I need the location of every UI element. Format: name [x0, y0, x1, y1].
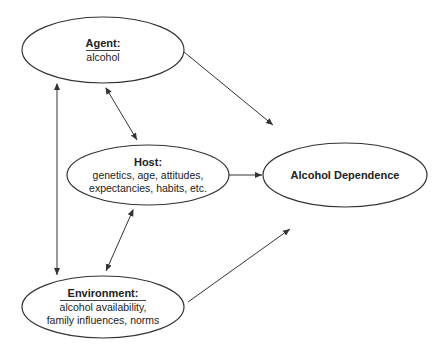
agent-node: Agent: alcohol [22, 17, 184, 83]
environment-desc-line-2: family influences, norms [47, 314, 160, 327]
environment-title: Environment: [68, 287, 139, 300]
host-node: Host: genetics, age, attitudes, expectan… [67, 145, 229, 205]
host-title: Host: [134, 156, 162, 169]
edge-agent-host [106, 88, 137, 140]
agent-desc: alcohol [86, 50, 119, 64]
environment-node: Environment: alcohol availability, famil… [22, 276, 184, 338]
host-desc-line-2: expectancies, habits, etc. [89, 182, 207, 195]
edge-environment-outcome [188, 229, 290, 302]
outcome-node: Alcohol Dependence [263, 143, 427, 207]
agent-title: Agent: [86, 37, 121, 50]
environment-desc-line-1: alcohol availability, [60, 300, 147, 314]
edge-host-environment [106, 210, 133, 271]
host-desc-line-1: genetics, age, attitudes, [93, 169, 204, 182]
edge-agent-outcome [184, 52, 273, 125]
outcome-title: Alcohol Dependence [291, 169, 400, 182]
